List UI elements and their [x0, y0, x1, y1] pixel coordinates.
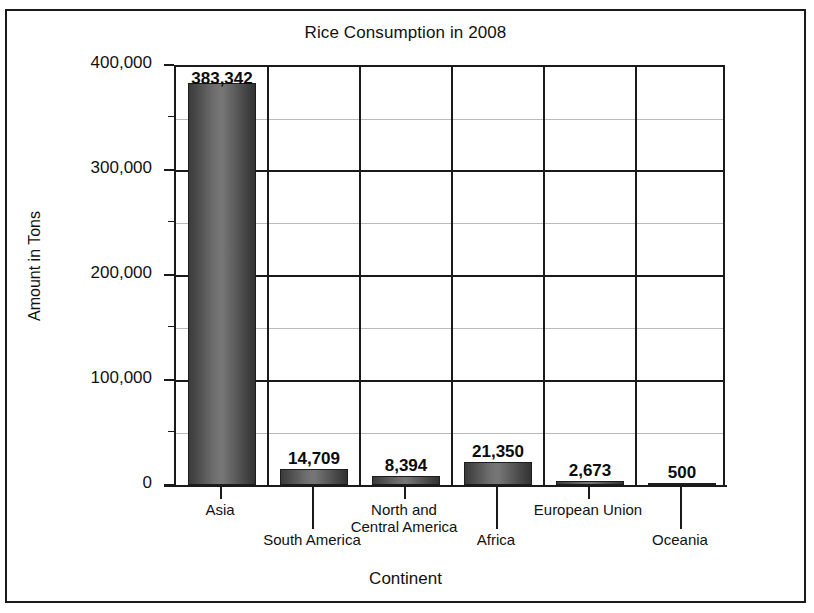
- y-tick-0: [164, 484, 174, 486]
- category-label-european-union: European Union: [513, 501, 663, 518]
- y-tick-minor-350000: [168, 116, 174, 117]
- category-tick-european-union: [588, 487, 590, 499]
- y-tick-400000: [164, 64, 174, 66]
- category-separator-3: [451, 67, 453, 485]
- y-tick-label-300000: 300,000: [22, 158, 152, 178]
- bar-value-label-africa: 21,350: [460, 442, 536, 462]
- category-label-africa: Africa: [436, 531, 556, 548]
- y-tick-label-100000: 100,000: [22, 368, 152, 388]
- category-separator-2: [359, 67, 361, 485]
- plot-area: 383,342 14,709 8,394 21,350 2,673 500: [174, 65, 725, 485]
- y-tick-100000: [164, 379, 174, 381]
- category-tick-oceania: [680, 487, 682, 529]
- category-tick-africa: [496, 487, 498, 529]
- bar-north-and-central-america[interactable]: [372, 476, 440, 485]
- category-tick-asia: [220, 487, 222, 499]
- y-tick-200000: [164, 274, 174, 276]
- x-axis-line: [164, 485, 727, 487]
- y-tick-minor-250000: [168, 221, 174, 222]
- category-tick-north-and-central-america: [404, 487, 406, 499]
- bar-value-label-asia: 383,342: [184, 69, 260, 89]
- bar-value-label-north-and-central-america: 8,394: [368, 456, 444, 476]
- category-label-oceania: Oceania: [620, 531, 740, 548]
- category-separator-1: [267, 67, 269, 485]
- category-separator-5: [635, 67, 637, 485]
- x-axis-title: Continent: [7, 569, 804, 589]
- bar-south-america[interactable]: [280, 469, 348, 485]
- y-tick-minor-50000: [168, 431, 174, 432]
- gridline-minor-250000: [176, 223, 723, 224]
- y-tick-label-200000: 200,000: [22, 263, 152, 283]
- bar-value-label-south-america: 14,709: [276, 449, 352, 469]
- category-label-north-and-central-america: North and Central America: [334, 501, 474, 535]
- category-separator-4: [543, 67, 545, 485]
- chart-title: Rice Consumption in 2008: [7, 23, 804, 43]
- gridline-minor-350000: [176, 119, 723, 120]
- y-tick-minor-150000: [168, 326, 174, 327]
- y-tick-300000: [164, 169, 174, 171]
- gridline-minor-150000: [176, 328, 723, 329]
- chart-frame: Rice Consumption in 2008 Amount in Tons …: [5, 9, 806, 603]
- gridline-major-200000: [176, 275, 723, 277]
- gridline-major-300000: [176, 170, 723, 172]
- gridline-minor-50000: [176, 433, 723, 434]
- bar-value-label-oceania: 500: [644, 463, 720, 483]
- y-tick-label-400000: 400,000: [22, 53, 152, 73]
- y-tick-label-0: 0: [22, 473, 152, 493]
- category-label-asia: Asia: [160, 501, 280, 518]
- bar-africa[interactable]: [464, 462, 532, 485]
- gridline-major-100000: [176, 380, 723, 382]
- bar-value-label-european-union: 2,673: [552, 461, 628, 481]
- bar-asia[interactable]: [188, 83, 256, 485]
- category-tick-south-america: [312, 487, 314, 529]
